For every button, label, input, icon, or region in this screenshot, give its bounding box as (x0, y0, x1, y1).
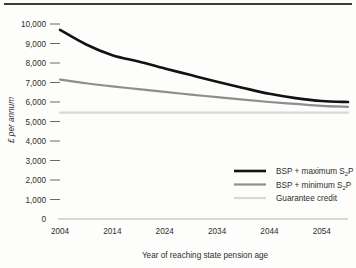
x-tick-label: 2024 (156, 227, 175, 236)
chart-legend: BSP + maximum S2PBSP + minimum S2PGuaran… (234, 167, 354, 203)
y-tick-label: 8,000 (26, 59, 47, 68)
y-tick-label: 9,000 (26, 40, 47, 49)
y-tick-label: 0 (41, 215, 46, 224)
legend-label: Guarantee credit (276, 194, 338, 203)
y-tick-label: 2,000 (26, 176, 47, 185)
legend-label: BSP + minimum S2P (276, 181, 352, 191)
series-line (60, 30, 348, 102)
x-tick-label: 2004 (51, 227, 70, 236)
x-tick-label: 2044 (260, 227, 279, 236)
y-tick-label: 3,000 (26, 157, 47, 166)
y-tick-label: 4,000 (26, 137, 47, 146)
y-tick-label: 10,000 (21, 20, 46, 29)
y-axis-ticks: 01,0002,0003,0004,0005,0006,0007,0008,00… (21, 20, 60, 224)
x-tick-label: 2014 (103, 227, 122, 236)
y-tick-label: 5,000 (26, 118, 47, 127)
y-tick-label: 7,000 (26, 79, 47, 88)
legend-label: BSP + maximum S2P (276, 167, 354, 177)
y-tick-label: 1,000 (26, 196, 47, 205)
x-tick-label: 2034 (208, 227, 227, 236)
chart-figure: 01,0002,0003,0004,0005,0006,0007,0008,00… (0, 0, 356, 268)
x-axis-ticks: 200420142024203420442054 (51, 227, 331, 236)
series-line (60, 80, 348, 107)
x-tick-label: 2054 (313, 227, 332, 236)
y-tick-label: 6,000 (26, 98, 47, 107)
line-chart: 01,0002,0003,0004,0005,0006,0007,0008,00… (0, 0, 356, 268)
data-series-group (60, 30, 348, 113)
x-axis-title: Year of reaching state pension age (142, 251, 269, 260)
y-axis-title: £ per annum (7, 97, 16, 144)
header-rule (4, 3, 352, 5)
